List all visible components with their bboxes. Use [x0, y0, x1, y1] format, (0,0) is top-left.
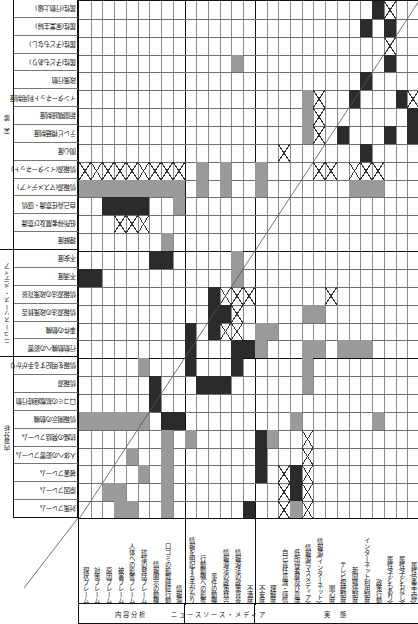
matrix-cell-r5-c28[interactable] — [407, 90, 418, 108]
matrix-cell-r6-c19[interactable] — [302, 108, 314, 126]
matrix-cell-r27-c3[interactable] — [114, 483, 126, 501]
matrix-cell-r9-c1[interactable] — [91, 162, 103, 180]
matrix-cell-r0-c25[interactable] — [372, 1, 384, 19]
matrix-cell-r17-c12[interactable] — [220, 305, 232, 323]
matrix-cell-r10-c25[interactable] — [372, 180, 384, 198]
matrix-cell-r19-c15[interactable] — [255, 340, 267, 358]
matrix-cell-r26-c17[interactable] — [278, 465, 290, 483]
matrix-cell-r14-c7[interactable] — [161, 251, 173, 269]
matrix-cell-r7-c22[interactable] — [337, 126, 349, 144]
matrix-cell-r10-c6[interactable] — [149, 180, 161, 198]
matrix-cell-r9-c23[interactable] — [349, 162, 361, 180]
matrix-cell-r23-c18[interactable] — [290, 412, 302, 430]
matrix-cell-r21-c10[interactable] — [196, 376, 208, 394]
matrix-cell-r23-c1[interactable] — [91, 412, 103, 430]
matrix-cell-r8-c24[interactable] — [360, 144, 372, 162]
matrix-cell-r9-c5[interactable] — [138, 162, 150, 180]
matrix-cell-r16-c21[interactable] — [325, 287, 337, 305]
matrix-cell-r9-c7[interactable] — [161, 162, 173, 180]
matrix-cell-r9-c21[interactable] — [325, 162, 337, 180]
matrix-cell-r19-c13[interactable] — [231, 340, 243, 358]
matrix-cell-r9-c12[interactable] — [220, 162, 232, 180]
matrix-cell-r9-c24[interactable] — [360, 162, 372, 180]
matrix-cell-r10-c5[interactable] — [138, 180, 150, 198]
matrix-cell-r25-c7[interactable] — [161, 448, 173, 466]
matrix-cell-r27-c2[interactable] — [102, 483, 114, 501]
matrix-cell-r20-c19[interactable] — [302, 358, 314, 376]
matrix-cell-r28-c17[interactable] — [278, 501, 290, 518]
matrix-cell-r24-c15[interactable] — [255, 430, 267, 448]
matrix-cell-r26-c7[interactable] — [161, 465, 173, 483]
matrix-cell-r3-c13[interactable] — [231, 55, 243, 73]
matrix-cell-r14-c13[interactable] — [231, 251, 243, 269]
matrix-cell-r11-c5[interactable] — [138, 197, 150, 215]
matrix-cell-r21-c12[interactable] — [220, 376, 232, 394]
matrix-cell-r18-c15[interactable] — [255, 323, 267, 341]
matrix-cell-r15-c0[interactable] — [79, 269, 91, 287]
matrix-cell-r26-c5[interactable] — [138, 465, 150, 483]
matrix-cell-r24-c7[interactable] — [161, 430, 173, 448]
matrix-cell-r23-c5[interactable] — [138, 412, 150, 430]
matrix-cell-r19-c23[interactable] — [349, 340, 361, 358]
matrix-cell-r19-c19[interactable] — [302, 340, 314, 358]
matrix-cell-r7-c19[interactable] — [302, 126, 314, 144]
matrix-cell-r20-c9[interactable] — [185, 358, 197, 376]
matrix-cell-r5-c19[interactable] — [302, 90, 314, 108]
matrix-cell-r10-c4[interactable] — [126, 180, 138, 198]
matrix-cell-r23-c7[interactable] — [161, 412, 173, 430]
matrix-cell-r24-c19[interactable] — [302, 430, 314, 448]
matrix-cell-r15-c13[interactable] — [231, 269, 243, 287]
matrix-cell-r22-c6[interactable] — [149, 394, 161, 412]
matrix-cell-r23-c8[interactable] — [173, 412, 185, 430]
matrix-cell-r10-c23[interactable] — [349, 180, 361, 198]
matrix-cell-r23-c0[interactable] — [79, 412, 91, 430]
matrix-cell-r19-c14[interactable] — [243, 340, 255, 358]
matrix-cell-r28-c7[interactable] — [161, 501, 173, 518]
matrix-cell-r13-c7[interactable] — [161, 233, 173, 251]
matrix-cell-r7-c28[interactable] — [407, 126, 418, 144]
matrix-cell-r10-c7[interactable] — [161, 180, 173, 198]
matrix-cell-r9-c4[interactable] — [126, 162, 138, 180]
matrix-cell-r12-c5[interactable] — [138, 215, 150, 233]
matrix-cell-r9-c15[interactable] — [255, 162, 267, 180]
matrix-cell-r28-c19[interactable] — [302, 501, 314, 518]
matrix-cell-r23-c3[interactable] — [114, 412, 126, 430]
matrix-cell-r17-c19[interactable] — [302, 305, 314, 323]
matrix-cell-r10-c0[interactable] — [79, 180, 91, 198]
matrix-cell-r5-c20[interactable] — [313, 90, 325, 108]
matrix-cell-r14-c6[interactable] — [149, 251, 161, 269]
matrix-cell-r28-c18[interactable] — [290, 501, 302, 518]
matrix-cell-r5-c23[interactable] — [349, 90, 361, 108]
matrix-cell-r16-c13[interactable] — [231, 287, 243, 305]
matrix-cell-r28-c3[interactable] — [114, 501, 126, 518]
matrix-cell-r23-c4[interactable] — [126, 412, 138, 430]
matrix-cell-r10-c12[interactable] — [220, 180, 232, 198]
matrix-cell-r21-c11[interactable] — [208, 376, 220, 394]
matrix-cell-r9-c2[interactable] — [102, 162, 114, 180]
matrix-cell-r11-c3[interactable] — [114, 197, 126, 215]
matrix-cell-r25-c15[interactable] — [255, 448, 267, 466]
matrix-cell-r16-c14[interactable] — [243, 287, 255, 305]
matrix-cell-r27-c7[interactable] — [161, 483, 173, 501]
matrix-cell-r27-c19[interactable] — [302, 483, 314, 501]
matrix-cell-r23-c25[interactable] — [372, 412, 384, 430]
matrix-cell-r28-c14[interactable] — [243, 501, 255, 518]
matrix-cell-r19-c24[interactable] — [360, 340, 372, 358]
matrix-cell-r9-c25[interactable] — [372, 162, 384, 180]
matrix-cell-r28-c4[interactable] — [126, 501, 138, 518]
matrix-cell-r18-c9[interactable] — [185, 323, 197, 341]
matrix-cell-r15-c1[interactable] — [91, 269, 103, 287]
matrix-cell-r17-c20[interactable] — [313, 305, 325, 323]
matrix-cell-r1-c26[interactable] — [384, 19, 396, 37]
matrix-cell-r10-c2[interactable] — [102, 180, 114, 198]
matrix-cell-r25-c4[interactable] — [126, 448, 138, 466]
matrix-cell-r19-c22[interactable] — [337, 340, 349, 358]
matrix-cell-r10-c15[interactable] — [255, 180, 267, 198]
matrix-cell-r2-c26[interactable] — [384, 37, 396, 55]
matrix-cell-r10-c3[interactable] — [114, 180, 126, 198]
matrix-cell-r6-c20[interactable] — [313, 108, 325, 126]
matrix-cell-r6-c28[interactable] — [407, 108, 418, 126]
matrix-cell-r17-c11[interactable] — [208, 305, 220, 323]
matrix-cell-r27-c17[interactable] — [278, 483, 290, 501]
matrix-cell-r0-c26[interactable] — [384, 1, 396, 19]
